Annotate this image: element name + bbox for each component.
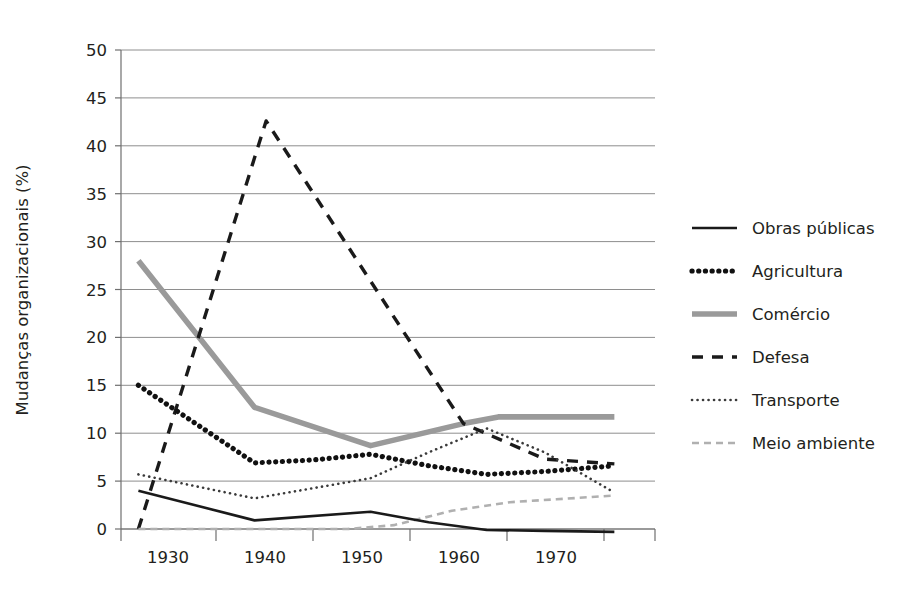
y-tick-label: 15 <box>86 376 107 395</box>
y-tick-label: 5 <box>97 472 108 491</box>
y-tick-label: 0 <box>97 520 108 539</box>
y-tick-label: 40 <box>86 137 107 156</box>
series-line-obras-p-blicas <box>138 491 614 532</box>
x-tick-label: 1950 <box>341 548 383 567</box>
y-axis-title-text: Mudanças organizacionais (%) <box>13 164 32 415</box>
x-tick-label: 1940 <box>244 548 286 567</box>
series-line-defesa <box>138 121 614 529</box>
y-axis-ticks <box>115 50 121 529</box>
y-axis-title: Mudanças organizacionais (%) <box>13 164 32 415</box>
legend-label: Obras públicas <box>752 219 875 238</box>
chart-legend: Obras públicasAgriculturaComércioDefesaT… <box>692 219 875 453</box>
legend-label: Defesa <box>752 348 810 367</box>
legend-label: Agricultura <box>752 262 843 281</box>
y-tick-label: 20 <box>86 328 107 347</box>
y-tick-label: 45 <box>86 89 107 108</box>
legend-label: Comércio <box>752 305 830 324</box>
y-tick-label: 10 <box>86 424 107 443</box>
y-axis-tick-labels: 05101520253035404550 <box>86 41 107 539</box>
series-line-agricultura <box>138 385 614 474</box>
legend-label: Meio ambiente <box>752 434 875 453</box>
series-line-transporte <box>138 428 614 498</box>
x-tick-label: 1960 <box>438 548 480 567</box>
y-tick-label: 35 <box>86 185 107 204</box>
chart-figure: 05101520253035404550 1930194019501960197… <box>0 0 914 595</box>
y-tick-label: 25 <box>86 281 107 300</box>
x-tick-label: 1930 <box>147 548 189 567</box>
x-tick-label: 1970 <box>535 548 577 567</box>
y-tick-label: 30 <box>86 233 107 252</box>
legend-label: Transporte <box>751 391 840 410</box>
line-chart: 05101520253035404550 1930194019501960197… <box>0 0 914 595</box>
data-series-group <box>138 121 614 532</box>
x-axis-tick-labels: 19301940195019601970 <box>147 548 577 567</box>
y-tick-label: 50 <box>86 41 107 60</box>
